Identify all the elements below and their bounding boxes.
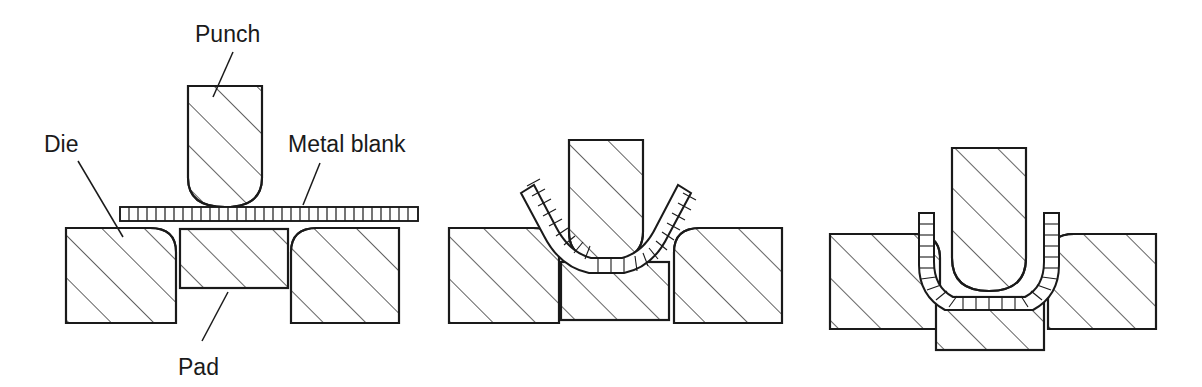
pad-stage1 xyxy=(174,223,296,295)
die-right-hatching xyxy=(668,222,793,330)
die-left-hatching xyxy=(60,222,185,330)
punch-body-stage3 xyxy=(944,142,1036,298)
metal-blank-stage1 xyxy=(120,207,418,221)
label-die: Die xyxy=(44,131,79,157)
die-right-stage1 xyxy=(285,222,410,330)
die-right-stage2 xyxy=(668,222,793,330)
die-left-stage1 xyxy=(60,222,185,330)
label-punch: Punch xyxy=(195,21,260,47)
pad-hatching xyxy=(174,223,296,295)
die-right-hatching xyxy=(285,222,410,330)
die-right-stage3 xyxy=(1042,228,1167,336)
label-metal-blank: Metal blank xyxy=(288,131,406,157)
forming-process-diagram: Punch Die Metal blank Pad xyxy=(0,0,1202,387)
diagram-canvas: Punch Die Metal blank Pad xyxy=(0,0,1202,387)
label-pad: Pad xyxy=(178,354,219,380)
punch-body-stage1 xyxy=(180,80,272,215)
die-right-hatching xyxy=(1042,228,1167,336)
